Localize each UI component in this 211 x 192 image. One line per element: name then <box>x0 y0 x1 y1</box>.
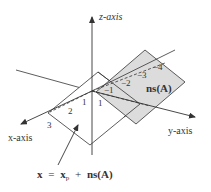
z-axis-label: z-axis <box>98 11 122 22</box>
tick-gray-neg4: −4 <box>153 62 163 72</box>
null-space-label: ns(A) <box>146 82 172 95</box>
solution-label-eq: = <box>48 168 54 180</box>
pointer-arrow <box>58 125 78 165</box>
tick-white-2: 2 <box>68 106 73 116</box>
tick-gray-neg1: −1 <box>104 85 114 95</box>
y-axis-label: y-axis <box>168 125 193 136</box>
tick-white-3: 3 <box>47 120 52 130</box>
tick-gray-neg3: −3 <box>137 70 147 80</box>
tick-white-1: 1 <box>82 97 87 107</box>
null-space-diagram: 1 −1 −2 −3 −4 1 2 3 ns(A) z-axis x-axis … <box>0 0 211 192</box>
x-axis-label: x-axis <box>8 132 33 143</box>
tick-gray-1: 1 <box>98 98 103 108</box>
solution-label-x: x <box>37 168 43 180</box>
tick-gray-neg2: −2 <box>121 78 131 88</box>
solution-label: x = xp + ns(A) <box>37 168 113 182</box>
solution-label-sub: p <box>66 174 70 182</box>
solution-label-plus: + <box>75 168 81 180</box>
solution-label-ns: ns(A) <box>87 168 113 181</box>
